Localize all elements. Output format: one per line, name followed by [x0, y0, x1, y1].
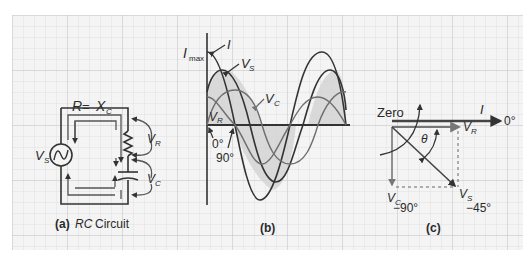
vs-wave-label-sub: S	[249, 64, 255, 73]
ac-source-icon	[50, 144, 72, 166]
rc-circuit-figure: R = X C V S	[0, 0, 532, 262]
ninety-deg-label: 90°	[216, 151, 234, 165]
panel-a-caption-letter: (a)	[55, 217, 70, 231]
vs-phasor-angle: −45°	[466, 201, 491, 215]
theta-label: θ	[421, 132, 428, 146]
panel-b-caption: (b)	[260, 221, 275, 235]
source-label-sub: S	[44, 156, 50, 165]
zero-deg-label: 0°	[212, 137, 224, 151]
zero-label: Zero	[377, 105, 404, 120]
equation-equals: =	[82, 99, 90, 114]
imax-label: I	[183, 45, 187, 61]
i-wave-label: I	[227, 37, 231, 52]
panel-a-caption-text: Circuit	[95, 217, 130, 231]
vr-phasor-label-sub: R	[471, 127, 477, 136]
vc-label-sub: C	[155, 179, 161, 188]
vr-wave-label-sub: R	[217, 116, 223, 125]
equation-r: R	[72, 98, 82, 114]
panel-a-caption-italic: RC	[75, 217, 93, 231]
panel-c-caption: (c)	[426, 221, 441, 235]
vr-label-sub: R	[155, 139, 161, 148]
imax-label-sub: max	[189, 54, 204, 63]
i-phasor-label: I	[480, 102, 484, 117]
equation-x: X	[95, 98, 106, 114]
i-phasor-angle: 0°	[504, 114, 516, 128]
vc-wave-label-sub: C	[274, 99, 280, 108]
vc-phasor-angle: −90°	[393, 201, 418, 215]
